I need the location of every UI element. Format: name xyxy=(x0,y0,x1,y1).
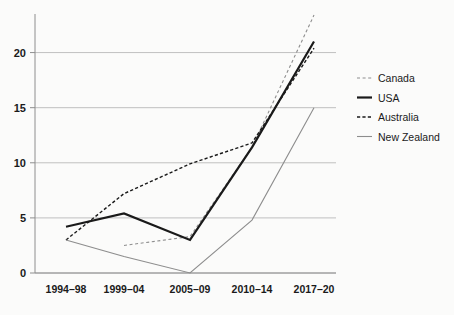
gridlines xyxy=(35,53,336,273)
series-line-canada xyxy=(124,15,314,245)
chart-container: 05101520 1994–981999–042005–092010–14201… xyxy=(0,0,454,315)
chart-legend: CanadaUSAAustraliaNew Zealand xyxy=(357,72,440,143)
series-line-usa xyxy=(66,42,314,240)
x-tick-label: 2005–09 xyxy=(170,283,211,295)
series-lines xyxy=(66,15,314,273)
x-tick-label: 2017–20 xyxy=(294,283,335,295)
y-axis-tick-labels: 05101520 xyxy=(14,47,35,279)
y-tick-label: 0 xyxy=(20,267,26,279)
x-tick-label: 1999–04 xyxy=(104,283,145,295)
y-tick-label: 15 xyxy=(14,102,26,114)
legend-label-canada: Canada xyxy=(378,72,415,84)
legend-label-new-zealand: New Zealand xyxy=(378,131,440,143)
x-axis-tick-labels: 1994–981999–042005–092010–142017–20 xyxy=(46,283,335,295)
series-line-australia xyxy=(66,48,314,240)
y-tick-label: 10 xyxy=(14,157,26,169)
legend-label-usa: USA xyxy=(378,92,400,104)
series-line-new-zealand xyxy=(66,108,314,273)
x-tick-label: 1994–98 xyxy=(46,283,87,295)
line-chart: 05101520 1994–981999–042005–092010–14201… xyxy=(0,0,454,315)
x-tick-label: 2010–14 xyxy=(232,283,273,295)
y-tick-label: 5 xyxy=(20,212,26,224)
y-tick-label: 20 xyxy=(14,47,26,59)
legend-label-australia: Australia xyxy=(378,111,419,123)
